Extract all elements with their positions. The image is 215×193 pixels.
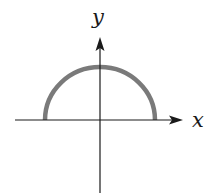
diagram-canvas: x y: [0, 0, 215, 193]
graph-svg: x y: [0, 0, 215, 193]
y-axis-label: y: [91, 5, 105, 29]
x-axis-label: x: [192, 108, 204, 132]
